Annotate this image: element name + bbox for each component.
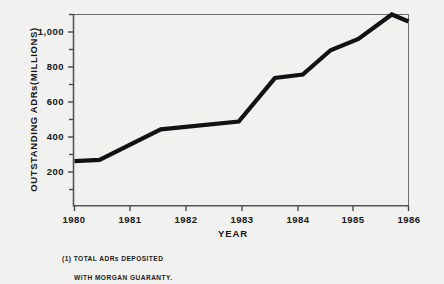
footnote-line-1: (1) TOTAL ADRs DEPOSITED [62,254,172,264]
y-tick-label-400: 400 [30,131,64,142]
chart-footnote: (1) TOTAL ADRs DEPOSITED WITH MORGAN GUA… [62,244,172,284]
x-tick-label-1986: 1986 [387,214,431,225]
x-axis-title: YEAR [193,228,273,239]
footnote-line-2: WITH MORGAN GUARANTY. [62,273,172,283]
x-tick-label-1981: 1981 [108,214,152,225]
x-tick-label-1984: 1984 [276,214,320,225]
y-tick-label-1000: 1,000 [30,26,64,37]
x-tick-label-1985: 1985 [331,214,375,225]
x-tick-label-1983: 1983 [220,214,264,225]
y-tick-label-600: 600 [30,96,64,107]
y-tick-label-800: 800 [30,61,64,72]
x-tick-label-1980: 1980 [52,214,96,225]
y-tick-label-200: 200 [30,166,64,177]
x-tick-label-1982: 1982 [164,214,208,225]
